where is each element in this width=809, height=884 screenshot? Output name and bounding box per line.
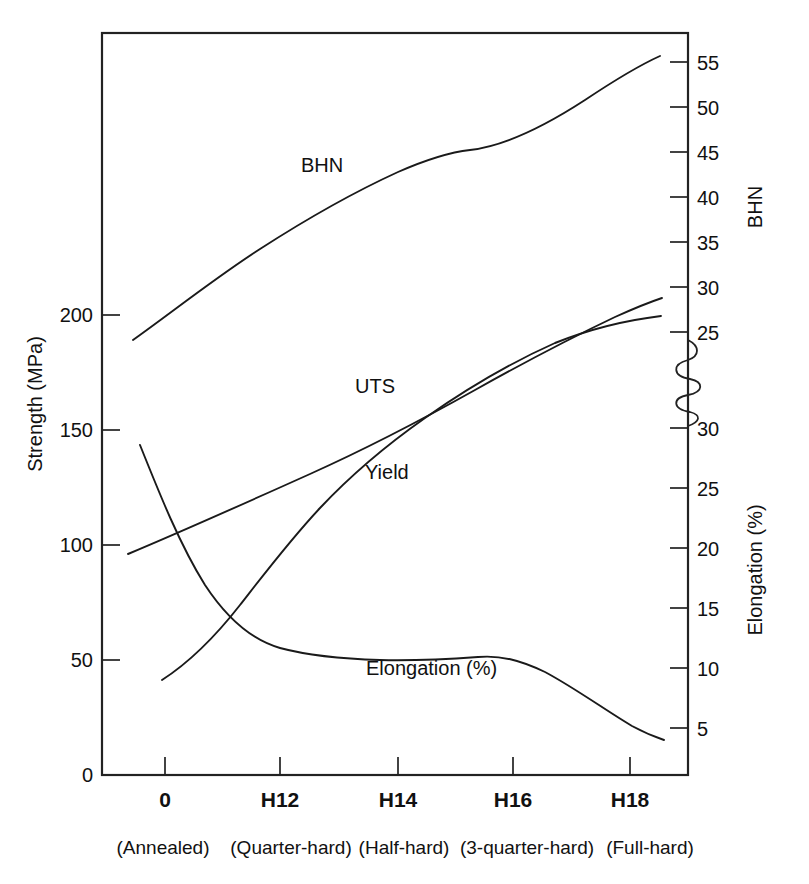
x-tick-label-0: 0 — [159, 788, 171, 811]
x-axis-tick-labels: 0 H12 H14 H16 H18 — [159, 788, 649, 811]
right-elong-label-20: 20 — [697, 538, 719, 560]
x-axis-ticks — [165, 757, 630, 775]
series-curve-bhn — [133, 56, 660, 340]
series-label-uts: UTS — [355, 375, 395, 397]
right-bhn-label-40: 40 — [697, 187, 719, 209]
x-sub-label-half-hard: (Half-hard) — [359, 837, 450, 858]
right-bhn-axis-title: BHN — [744, 186, 766, 228]
series-curve-elongation — [140, 445, 664, 740]
x-tick-label-h12: H12 — [261, 788, 300, 811]
right-bhn-label-25: 25 — [697, 322, 719, 344]
x-sub-label-3-quarter-hard: (3-quarter-hard) — [460, 837, 594, 858]
series-label-yield: Yield — [365, 461, 409, 483]
left-tick-label-50: 50 — [71, 649, 93, 671]
right-bhn-ticks — [670, 62, 688, 332]
right-elongation-ticks — [670, 428, 688, 728]
left-axis-tick-labels: 200 150 100 50 0 — [60, 304, 93, 786]
right-bhn-label-45: 45 — [697, 142, 719, 164]
series-label-bhn: BHN — [301, 154, 343, 176]
x-tick-label-h18: H18 — [611, 788, 650, 811]
right-elong-label-10: 10 — [697, 658, 719, 680]
left-axis-ticks — [102, 315, 120, 660]
left-tick-label-150: 150 — [60, 419, 93, 441]
x-tick-label-h14: H14 — [379, 788, 418, 811]
right-bhn-label-30: 30 — [697, 277, 719, 299]
right-bhn-tick-labels: 55 50 45 40 35 30 25 — [697, 52, 719, 344]
x-tick-label-h16: H16 — [494, 788, 533, 811]
right-elong-label-30: 30 — [697, 418, 719, 440]
left-axis-title: Strength (MPa) — [24, 336, 46, 472]
right-elong-label-5: 5 — [697, 718, 708, 740]
right-elongation-tick-labels: 30 25 20 15 10 5 — [697, 418, 719, 740]
x-axis-sub-labels: (Annealed) (Quarter-hard) (Half-hard) (3… — [117, 837, 694, 858]
left-tick-label-0: 0 — [82, 764, 93, 786]
left-tick-label-100: 100 — [60, 534, 93, 556]
right-elong-label-25: 25 — [697, 478, 719, 500]
right-elong-label-15: 15 — [697, 598, 719, 620]
x-sub-label-quarter-hard: (Quarter-hard) — [230, 837, 351, 858]
right-bhn-label-50: 50 — [697, 97, 719, 119]
right-bhn-label-35: 35 — [697, 232, 719, 254]
series-label-elongation: Elongation (%) — [366, 657, 497, 679]
series-curve-yield — [162, 316, 661, 680]
left-tick-label-200: 200 — [60, 304, 93, 326]
chart-svg: 200 150 100 50 0 Strength (MPa) 55 50 45… — [0, 0, 809, 884]
right-bhn-label-55: 55 — [697, 52, 719, 74]
series-curve-uts — [128, 298, 662, 554]
x-sub-label-annealed: (Annealed) — [117, 837, 210, 858]
x-sub-label-full-hard: (Full-hard) — [606, 837, 694, 858]
chart-figure: 200 150 100 50 0 Strength (MPa) 55 50 45… — [0, 0, 809, 884]
right-elongation-axis-title: Elongation (%) — [744, 504, 766, 635]
